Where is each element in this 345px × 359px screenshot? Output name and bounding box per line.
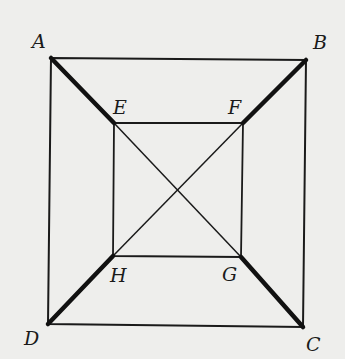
label-E: E [112,96,127,118]
label-D: D [23,327,39,349]
label-F: F [227,96,242,118]
inner-diagonals [113,123,243,257]
label-G: G [222,263,237,285]
segment-BF [243,60,306,123]
thick-segments [48,58,306,327]
label-A: A [30,30,46,52]
geometry-diagram: A B C D E F G H [0,0,345,359]
segment-DH [48,256,113,324]
segment-AE [51,58,114,123]
label-H: H [109,264,127,286]
segment-CG [241,257,303,327]
label-B: B [312,31,327,53]
label-C: C [306,333,321,355]
